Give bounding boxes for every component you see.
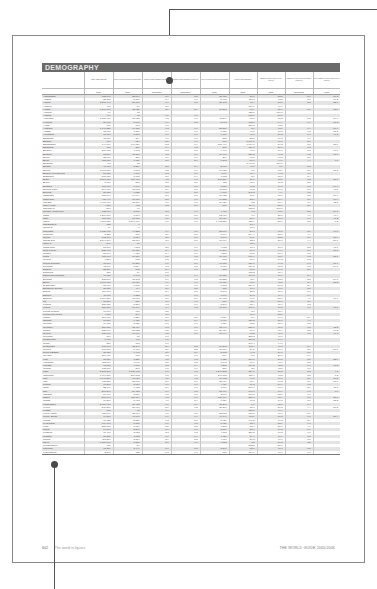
column-header: TOTAL POPULATION (THOUSANDS) [113, 72, 142, 89]
demography-table-wrap: AREA (SQUARE KM)TOTAL POPULATION (THOUSA… [42, 72, 340, 454]
demography-table: AREA (SQUARE KM)TOTAL POPULATION (THOUSA… [42, 72, 340, 454]
book-title: THE WORLD GUIDE 2005/2006 [279, 546, 335, 550]
column-header: URBAN POPULATION (% OF TOTAL) [257, 72, 285, 89]
footer-left: 602 The world in figures [42, 546, 85, 550]
page-number: 602 [42, 546, 48, 550]
section-title: DEMOGRAPHY [42, 63, 340, 72]
column-header: AREA (SQUARE KM) [84, 72, 113, 89]
column-header: TOTAL POPULATION (THOUSANDS) [200, 72, 229, 89]
column-header: URBAN POPULATION GROWTH RATE (%) [285, 72, 313, 89]
callout-line-bottom-vertical [54, 464, 55, 589]
column-header: CITY URBAN POPULATION (% OF TOTAL) [313, 72, 340, 89]
column-header: POPULATION GROWTH RATE (%) [171, 72, 200, 89]
table-bottom-rule [42, 454, 340, 455]
table-body: Afghanistan652,09023,8973.73.535,45336.6… [42, 95, 340, 454]
table-header-row: AREA (SQUARE KM)TOTAL POPULATION (THOUSA… [42, 72, 340, 89]
column-header: POPULATION DENSITY [229, 72, 257, 89]
callout-dot-top [166, 77, 173, 84]
callout-line-top-horizontal [169, 9, 377, 10]
column-header [42, 72, 84, 89]
section-name: The world in figures [55, 546, 86, 550]
callout-dot-bottom [51, 461, 58, 468]
